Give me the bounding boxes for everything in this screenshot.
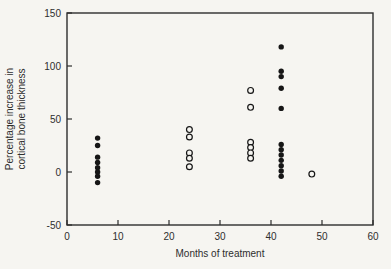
data-point-filled [95,160,100,165]
y-tick-label: 100 [44,61,61,72]
y-tick-label: 50 [50,114,62,125]
data-point-open [248,155,254,161]
data-point-filled [95,154,100,159]
y-axis-title-line: cortical bone thickness [16,68,27,169]
data-point-filled [279,158,284,163]
data-point-filled [279,142,284,147]
data-point-filled [95,143,100,148]
y-tick-label: 150 [44,8,61,19]
x-tick-label: 50 [316,231,328,242]
data-point-filled [95,135,100,140]
data-point-open [248,104,254,110]
data-point-filled [279,106,284,111]
data-point-filled [279,74,284,79]
scatter-plot: 0102030405060-50050100150Months of treat… [0,0,391,269]
data-point-filled [95,174,100,179]
data-point-filled [279,163,284,168]
data-point-filled [95,180,100,185]
x-tick-label: 0 [64,231,70,242]
data-point-open [248,87,254,93]
data-point-open [187,164,193,170]
data-point-open [187,134,193,140]
data-point-open [309,171,315,177]
x-tick-label: 60 [367,231,379,242]
data-point-filled [279,152,284,157]
x-tick-label: 10 [112,231,124,242]
data-point-filled [279,174,284,179]
x-tick-label: 40 [265,231,277,242]
data-point-open [187,155,193,161]
x-tick-label: 20 [163,231,175,242]
plot-frame [67,13,373,225]
data-point-filled [279,168,284,173]
data-point-filled [279,147,284,152]
x-tick-label: 30 [214,231,226,242]
x-axis-title: Months of treatment [176,248,265,259]
y-tick-label: -50 [47,220,62,231]
scatter-chart-figure: 0102030405060-50050100150Months of treat… [0,0,391,269]
y-tick-label: 0 [55,167,61,178]
data-point-filled [279,44,284,49]
data-point-filled [279,86,284,91]
y-axis-title-line: Percentage increase in [4,68,15,170]
data-point-open [187,127,193,133]
data-point-filled [279,69,284,74]
